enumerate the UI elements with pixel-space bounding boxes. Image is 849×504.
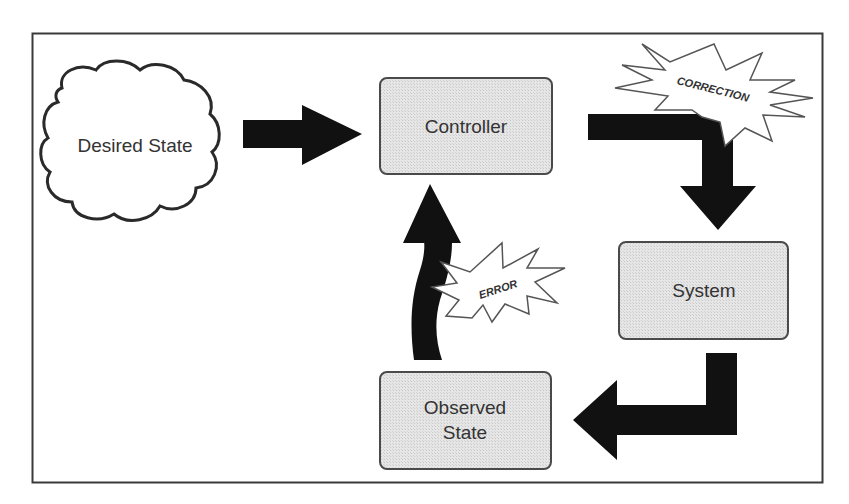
observed-state-box bbox=[380, 372, 551, 469]
desired-state-node: Desired State bbox=[41, 61, 220, 220]
controller-node: Controller bbox=[380, 78, 552, 174]
controller-label: Controller bbox=[425, 116, 508, 137]
system-label: System bbox=[672, 280, 735, 301]
system-node: System bbox=[619, 242, 788, 339]
feedback-loop-diagram: Desired State Controller CORRECTION Syst… bbox=[0, 0, 849, 504]
observed-state-label-line2: State bbox=[443, 422, 487, 443]
observed-state-label-line1: Observed bbox=[424, 397, 506, 418]
observed-state-node: Observed State bbox=[380, 372, 551, 469]
desired-state-label: Desired State bbox=[77, 135, 192, 156]
